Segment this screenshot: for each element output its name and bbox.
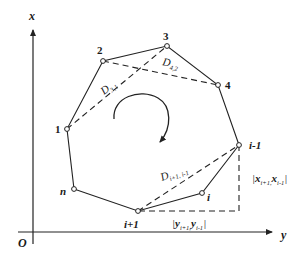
vertex-3 (165, 44, 170, 49)
x-axis-label: x (28, 9, 35, 23)
diagonal-label-d42: D4,2 (160, 55, 180, 72)
polygon-diagonal-diagram: x y O 1 2 3 4 i-1 i i+1 n D (0, 0, 302, 263)
x-difference-label: |xi+1,xi-1| (252, 172, 287, 186)
vertex-label-i-plus-1: i+1 (124, 218, 139, 230)
y-axis-label: y (279, 228, 287, 242)
y-difference-label: |yi+1,yi-1| (172, 217, 206, 231)
polygon-outline (67, 46, 239, 211)
vertex-label-i: i (207, 191, 211, 203)
vertex-label-n: n (60, 185, 66, 197)
diagonal-labels: D3,1 D4,2 Di+1, i-1 (97, 55, 190, 185)
vertex-label-i-minus-1: i-1 (249, 139, 261, 151)
diagonal-iplus1-iminus1 (138, 145, 239, 211)
vertex-1 (65, 127, 70, 132)
vertex-label-4: 4 (225, 79, 231, 91)
clockwise-rotation-arrow-icon (114, 94, 169, 142)
dashed-diagonals (67, 46, 239, 211)
vertex-i (200, 191, 205, 196)
vertex-4 (216, 83, 221, 88)
origin-label: O (18, 236, 27, 250)
vertex-2 (101, 59, 106, 64)
distance-labels: |xi+1,xi-1| |yi+1,yi-1| (172, 172, 287, 231)
diagonal-2-4 (103, 61, 218, 85)
vertex-labels: 1 2 3 4 i-1 i i+1 n (55, 30, 261, 230)
polygon-vertices (65, 44, 242, 214)
vertex-label-2: 2 (97, 44, 103, 56)
vertex-label-3: 3 (163, 30, 169, 42)
polygon-edges (67, 46, 239, 211)
vertex-label-1: 1 (55, 123, 61, 135)
vertex-i-plus-1 (136, 209, 141, 214)
diagonal-label-d-iplus1-iminus1: Di+1, i-1 (158, 162, 190, 185)
vertex-i-minus-1 (237, 143, 242, 148)
vertex-n (72, 187, 77, 192)
